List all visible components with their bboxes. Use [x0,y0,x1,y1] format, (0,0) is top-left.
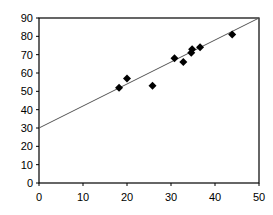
x-tick-label: 40 [209,191,221,203]
trendline [39,18,259,128]
diamond-marker [123,75,131,83]
trendline-path [39,18,259,128]
y-tick-label: 70 [21,49,33,61]
diamond-marker [196,43,204,51]
y-tick-label: 50 [21,85,33,97]
y-tick-label: 90 [21,12,33,24]
diamond-marker [149,82,157,90]
scatter-chart: 0102030405060708090 01020304050 [0,0,273,215]
y-tick-label: 0 [27,177,33,189]
y-tick-label: 60 [21,67,33,79]
x-tick-label: 20 [121,191,133,203]
y-tick-label: 10 [21,159,33,171]
x-tick-label: 10 [77,191,89,203]
diamond-marker [228,31,236,39]
plot-area [39,18,259,183]
plot-border [39,18,259,183]
y-tick-label: 20 [21,140,33,152]
x-tick-label: 0 [36,191,42,203]
x-axis: 01020304050 [36,183,265,203]
diamond-marker [115,84,123,92]
diamond-marker [179,58,187,66]
x-tick-label: 30 [165,191,177,203]
y-tick-label: 30 [21,122,33,134]
y-tick-label: 40 [21,104,33,116]
x-tick-label: 50 [253,191,265,203]
data-points [115,31,236,92]
y-axis: 0102030405060708090 [21,12,39,189]
y-tick-label: 80 [21,30,33,42]
